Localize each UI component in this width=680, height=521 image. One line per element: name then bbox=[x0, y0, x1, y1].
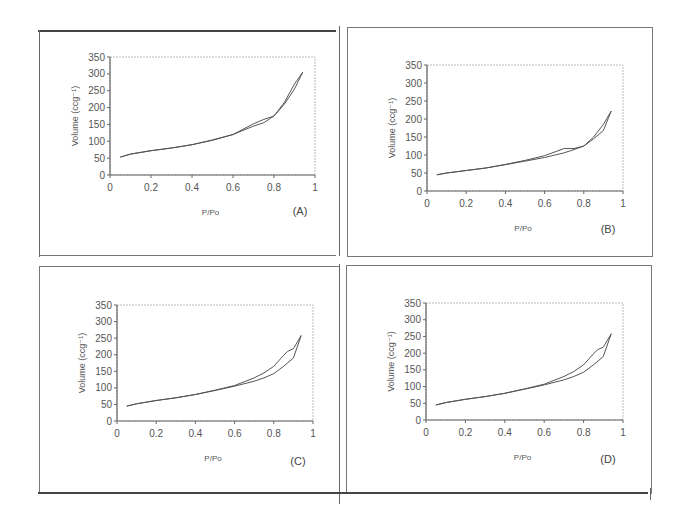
y-tick-label: 250 bbox=[404, 331, 421, 342]
y-tick-label: 150 bbox=[405, 132, 422, 143]
x-tick-label: 0.2 bbox=[458, 427, 472, 438]
x-tick-label: 0.4 bbox=[185, 182, 199, 193]
panel-label: (A) bbox=[293, 205, 308, 217]
x-tick-label: 0.6 bbox=[537, 427, 551, 438]
series-desorption bbox=[127, 336, 301, 407]
y-tick-label: 200 bbox=[405, 114, 422, 125]
series-adsorption bbox=[127, 336, 301, 407]
panel-label: (D) bbox=[600, 453, 615, 465]
x-tick-label: 1 bbox=[310, 428, 316, 439]
y-tick-label: 50 bbox=[410, 398, 422, 409]
y-tick-label: 250 bbox=[88, 85, 105, 96]
x-tick-label: 0.4 bbox=[498, 198, 512, 209]
y-tick-label: 0 bbox=[416, 186, 422, 197]
x-tick-label: 0.4 bbox=[188, 428, 202, 439]
x-tick-label: 0.4 bbox=[498, 427, 512, 438]
y-tick-label: 250 bbox=[405, 96, 422, 107]
y-tick-label: 200 bbox=[404, 348, 421, 359]
x-axis-label: P/Po bbox=[514, 453, 532, 462]
y-tick-label: 350 bbox=[95, 300, 112, 311]
x-tick-label: 0 bbox=[107, 182, 113, 193]
x-tick-label: 0 bbox=[114, 428, 120, 439]
x-axis-label: P/Po bbox=[202, 208, 220, 217]
x-tick-label: 0.8 bbox=[577, 427, 591, 438]
y-tick-label: 150 bbox=[88, 119, 105, 130]
y-tick-label: 250 bbox=[95, 333, 112, 344]
x-axis-label: P/Po bbox=[204, 454, 222, 463]
y-tick-label: 350 bbox=[88, 52, 105, 63]
y-tick-label: 150 bbox=[95, 366, 112, 377]
x-tick-label: 1 bbox=[312, 182, 318, 193]
x-tick-label: 0.6 bbox=[228, 428, 242, 439]
plot-area bbox=[426, 303, 623, 420]
y-tick-label: 0 bbox=[415, 415, 421, 426]
chart-panel-d: 05010015020025030035000.20.40.60.81Volum… bbox=[386, 298, 626, 466]
y-tick-label: 300 bbox=[404, 314, 421, 325]
y-tick-label: 300 bbox=[95, 316, 112, 327]
x-tick-label: 0.2 bbox=[144, 182, 158, 193]
y-tick-label: 350 bbox=[405, 60, 422, 71]
x-tick-label: 0.2 bbox=[149, 428, 163, 439]
x-tick-label: 0 bbox=[424, 198, 430, 209]
y-axis-label: Volume (ccg⁻¹) bbox=[77, 333, 87, 394]
y-tick-label: 100 bbox=[88, 136, 105, 147]
y-tick-label: 50 bbox=[94, 153, 106, 164]
x-tick-label: 0.8 bbox=[267, 428, 281, 439]
y-tick-label: 0 bbox=[106, 416, 112, 427]
y-tick-label: 100 bbox=[404, 381, 421, 392]
y-tick-label: 50 bbox=[411, 168, 423, 179]
y-tick-label: 350 bbox=[404, 298, 421, 309]
chart-panel-b: 05010015020025030035000.20.40.60.81Volum… bbox=[387, 60, 626, 236]
x-axis-label: P/Po bbox=[514, 224, 532, 233]
charts-canvas: 05010015020025030035000.20.40.60.81Volum… bbox=[0, 0, 680, 521]
y-tick-label: 200 bbox=[95, 349, 112, 360]
y-tick-label: 100 bbox=[405, 150, 422, 161]
panel-label: (B) bbox=[601, 223, 616, 235]
y-axis-label: Volume (ccg⁻¹) bbox=[386, 331, 396, 392]
series-adsorption bbox=[437, 111, 611, 175]
x-tick-label: 0.8 bbox=[577, 198, 591, 209]
series-desorption bbox=[436, 334, 611, 405]
chart-panel-c: 05010015020025030035000.20.40.60.81Volum… bbox=[77, 300, 316, 468]
x-tick-label: 0 bbox=[423, 427, 429, 438]
y-tick-label: 100 bbox=[95, 382, 112, 393]
y-tick-label: 50 bbox=[101, 399, 113, 410]
x-tick-label: 1 bbox=[620, 427, 626, 438]
chart-panel-a: 05010015020025030035000.20.40.60.81Volum… bbox=[70, 52, 318, 218]
x-tick-label: 0.6 bbox=[226, 182, 240, 193]
y-tick-label: 300 bbox=[88, 68, 105, 79]
series-desorption bbox=[120, 72, 302, 157]
plot-area bbox=[110, 57, 315, 175]
x-tick-label: 1 bbox=[620, 198, 626, 209]
y-tick-label: 150 bbox=[404, 364, 421, 375]
y-tick-label: 200 bbox=[88, 102, 105, 113]
y-axis-label: Volume (ccg⁻¹) bbox=[387, 98, 397, 159]
panel-label: (C) bbox=[290, 455, 305, 467]
y-axis-label: Volume (ccg⁻¹) bbox=[70, 86, 80, 147]
y-tick-label: 0 bbox=[99, 170, 105, 181]
x-tick-label: 0.2 bbox=[459, 198, 473, 209]
series-desorption bbox=[437, 111, 611, 175]
y-tick-label: 300 bbox=[405, 78, 422, 89]
x-tick-label: 0.6 bbox=[538, 198, 552, 209]
plot-area bbox=[117, 305, 313, 421]
series-adsorption bbox=[436, 334, 611, 405]
x-tick-label: 0.8 bbox=[267, 182, 281, 193]
